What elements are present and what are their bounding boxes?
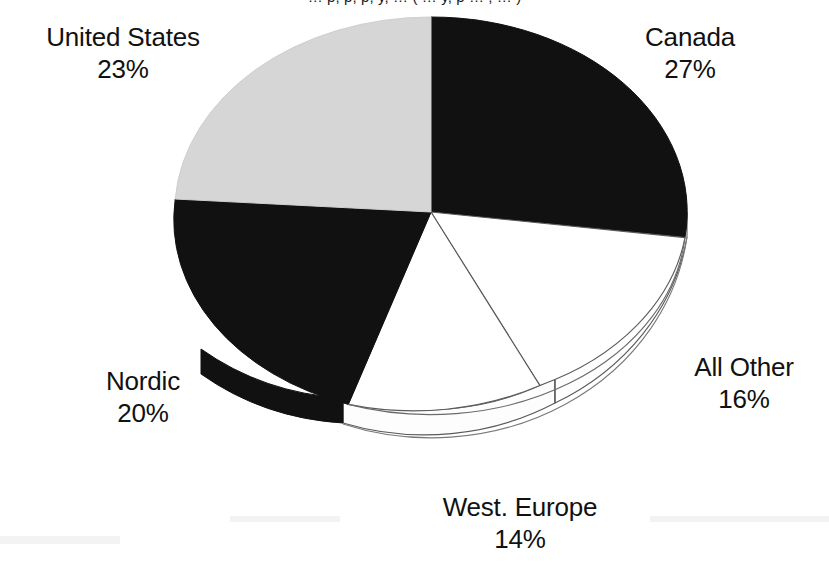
slice-label-united-states: United States 23% [8,22,238,85]
slice-label-name: All Other [660,352,828,384]
slice-label-all-other: All Other 16% [660,352,828,415]
slice-label-percent: 23% [8,54,238,86]
chart-page: … p, p, p, y, … ( … y, p … , … ) [0,0,829,566]
slice-label-name: West. Europe [395,492,645,524]
slice-label-canada: Canada 27% [590,22,790,85]
slice-label-name: United States [8,22,238,54]
slice-label-percent: 20% [48,398,238,430]
slice-label-percent: 27% [590,54,790,86]
slice-label-west-europe: West. Europe 14% [395,492,645,555]
slice-label-name: Nordic [48,366,238,398]
slice-label-percent: 14% [395,524,645,556]
slice-label-percent: 16% [660,384,828,416]
slice-label-nordic: Nordic 20% [48,366,238,429]
slice-label-name: Canada [590,22,790,54]
